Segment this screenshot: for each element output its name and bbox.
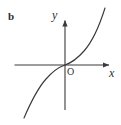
panel-letter-label: b xyxy=(8,11,14,22)
y-axis-label: y xyxy=(52,9,57,21)
cartesian-plot xyxy=(0,0,121,125)
x-axis-label: x xyxy=(109,67,114,79)
figure-panel: b y x O xyxy=(0,0,121,125)
origin-label: O xyxy=(67,67,74,77)
